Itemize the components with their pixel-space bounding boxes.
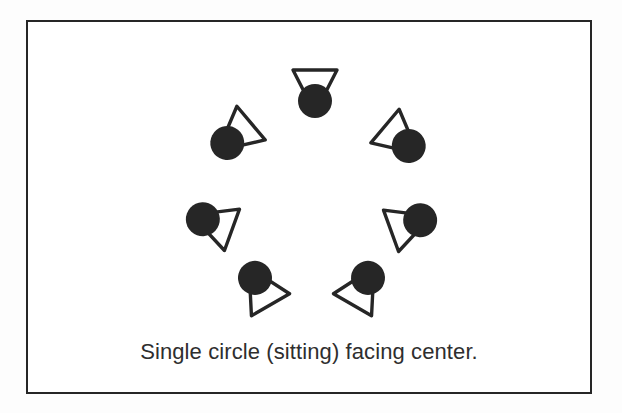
head-circle-icon: [298, 84, 332, 118]
diagram-frame: Single circle (sitting) facing center.: [26, 20, 592, 394]
person-symbol-top: [280, 52, 350, 122]
person-symbol-middle-right: [372, 190, 442, 260]
person-symbol-upper-right: [363, 102, 433, 172]
person-glyph: [372, 190, 442, 260]
person-glyph: [227, 255, 297, 325]
person-glyph: [280, 52, 350, 122]
diagram-caption: Single circle (sitting) facing center.: [28, 338, 590, 366]
person-symbol-middle-left: [181, 189, 251, 259]
person-symbol-lower-left: [227, 255, 297, 325]
person-glyph: [181, 189, 251, 259]
page-canvas: Single circle (sitting) facing center.: [0, 0, 622, 413]
person-glyph: [326, 255, 396, 325]
person-glyph: [203, 99, 273, 169]
person-symbol-lower-right: [326, 255, 396, 325]
person-glyph: [363, 102, 433, 172]
person-symbol-upper-left: [203, 99, 273, 169]
